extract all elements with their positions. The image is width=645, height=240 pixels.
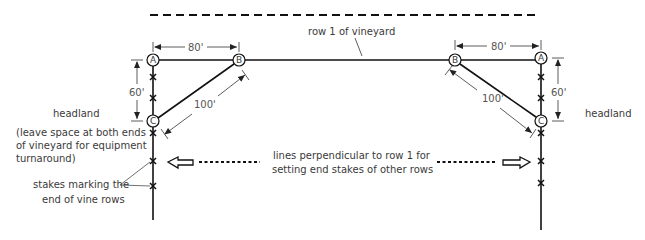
headland-left-label: headland [53, 107, 100, 120]
right-point-a-label: A [538, 52, 544, 65]
headland-right-label: headland [585, 107, 632, 120]
right-dim-80: 80' [491, 40, 506, 53]
left-hollow-arrow [168, 157, 193, 168]
left-dim-80: 80' [188, 41, 203, 54]
left-dim-60: 60' [129, 86, 144, 99]
right-hollow-arrow [503, 157, 530, 168]
right-points [449, 52, 547, 127]
left-point-a-label: A [150, 54, 156, 67]
left-point-c-label: C [150, 115, 156, 128]
left-dim-100: 100' [194, 98, 216, 111]
right-point-c-label: C [538, 115, 544, 128]
headland-note-line2: of vineyard for equipment [16, 139, 147, 152]
right-point-b-label: B [452, 54, 458, 67]
perpendicular-label-line1: lines perpendicular to row 1 for [273, 149, 430, 162]
right-diagonal-bc [460, 64, 536, 117]
right-dim-100: 100' [482, 92, 504, 105]
headland-note-line1: (leave space at both ends [16, 126, 146, 139]
perpendicular-label-line2: setting end stakes of other rows [272, 163, 433, 176]
row-label-leader [355, 38, 362, 56]
right-dim-60: 60' [551, 86, 566, 99]
row-1-label: row 1 of vineyard [308, 25, 395, 38]
stakes-label-line1: stakes marking the [33, 178, 129, 191]
headland-note-line3: turnaround) [16, 152, 76, 165]
left-point-b-label: B [236, 54, 242, 67]
stakes-label-line2: end of vine rows [42, 193, 125, 206]
